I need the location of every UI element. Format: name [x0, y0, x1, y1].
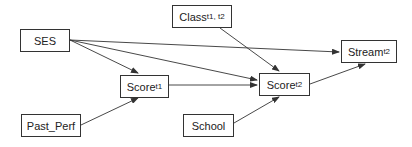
- node-label: Past_Perf: [27, 120, 75, 132]
- node-score-t2: Scoret2: [259, 73, 310, 96]
- node-stream-t2: Streamt2: [341, 40, 397, 63]
- node-label: Score: [127, 81, 156, 93]
- edge-ses-to-stream_t2: [70, 40, 339, 52]
- node-school: School: [183, 114, 234, 137]
- edge-school-to-score_t2: [234, 97, 279, 123]
- edge-ses-to-score_t2: [70, 40, 257, 80]
- node-class: Classt1, t2: [172, 5, 232, 28]
- node-label: School: [192, 120, 226, 132]
- edge-ses-to-score_t1: [70, 40, 138, 73]
- node-label: SES: [34, 35, 56, 47]
- node-score-t1: Scoret1: [120, 75, 169, 98]
- edge-class-to-score_t2: [220, 28, 279, 71]
- edge-past_perf-to-score_t1: [81, 98, 138, 125]
- node-past-perf: Past_Perf: [21, 114, 81, 137]
- node-label: Class: [179, 11, 207, 23]
- node-label: Stream: [348, 46, 383, 58]
- node-label: Score: [267, 79, 296, 91]
- edge-score_t2-to-stream_t2: [310, 64, 365, 84]
- node-ses: SES: [20, 29, 70, 52]
